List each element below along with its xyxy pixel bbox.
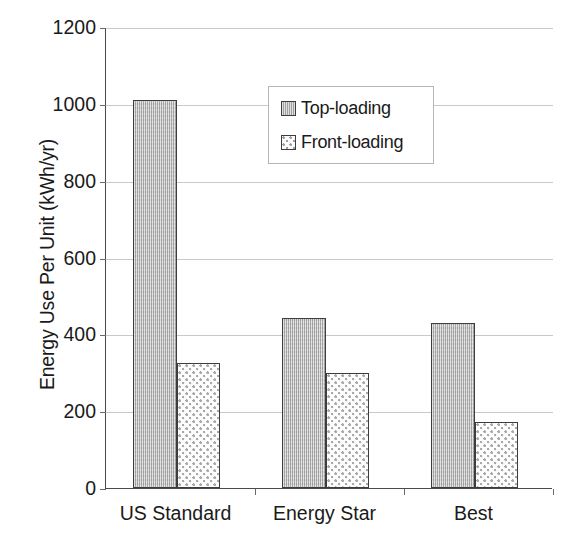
legend-entry-top-loading: Top-loading	[281, 98, 391, 119]
legend-entry-front-loading: Front-loading	[281, 132, 403, 153]
y-axis-tick	[100, 182, 106, 183]
x-axis-tick	[404, 489, 405, 495]
legend-swatch-front-loading	[281, 135, 296, 150]
legend-label-front-loading: Front-loading	[301, 132, 403, 153]
x-axis-tick	[553, 489, 554, 495]
x-axis-tick	[255, 489, 256, 495]
legend-swatch-top-loading	[281, 101, 296, 116]
bar-top-loading-best	[431, 323, 475, 488]
y-axis-tick-label: 0	[8, 477, 96, 500]
y-axis-tick-label: 600	[8, 247, 96, 270]
y-axis-tick-label: 200	[8, 400, 96, 423]
legend-label-top-loading: Top-loading	[301, 98, 391, 119]
y-axis-tick	[100, 105, 106, 106]
y-axis-tick-label: 400	[8, 323, 96, 346]
y-axis-tick	[100, 28, 106, 29]
bar-top-loading-energy-star	[282, 318, 326, 488]
bar-front-loading-us-standard	[177, 363, 221, 488]
y-axis-tick	[100, 412, 106, 413]
bar-front-loading-best	[475, 422, 519, 488]
x-axis-label-best: Best	[454, 502, 493, 525]
bar-front-loading-energy-star	[326, 373, 370, 488]
y-axis-tick	[100, 335, 106, 336]
x-axis-label-us-standard: US Standard	[120, 502, 232, 525]
y-axis-tick	[100, 489, 106, 490]
x-axis-label-energy-star: Energy Star	[273, 502, 376, 525]
y-axis-tick-label: 1200	[8, 16, 96, 39]
bar-top-loading-us-standard	[133, 100, 177, 488]
y-axis-tick	[100, 259, 106, 260]
bar-chart: Energy Use Per Unit (kWh/yr) 02004006008…	[0, 0, 580, 546]
y-axis-tick-label: 800	[8, 170, 96, 193]
chart-legend: Top-loading Front-loading	[268, 86, 434, 164]
gridline	[106, 28, 553, 29]
y-axis-tick-label: 1000	[8, 93, 96, 116]
